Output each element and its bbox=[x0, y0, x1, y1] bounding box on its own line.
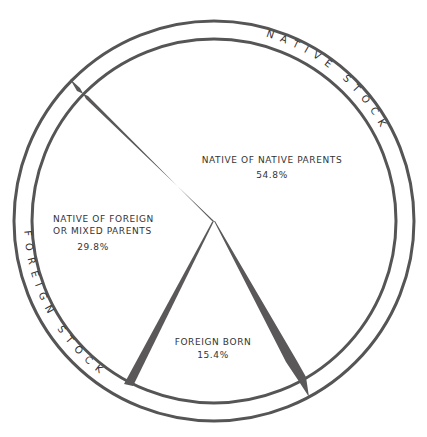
pie-chart: NATIVE STOCK FOREIGN STOCK NATIVE OF NAT… bbox=[0, 0, 427, 437]
slice-name: NATIVE OF NATIVE PARENTS bbox=[202, 155, 343, 165]
separator-native-foreign bbox=[70, 79, 214, 222]
slice-value: 54.8% bbox=[256, 170, 288, 180]
slice-name: NATIVE OF FOREIGN bbox=[53, 214, 154, 224]
slice-name: FOREIGN BORN bbox=[175, 337, 252, 347]
separator-native-foreignborn bbox=[214, 221, 309, 397]
slice-name-line2: OR MIXED PARENTS bbox=[53, 226, 152, 236]
slice-label-native-native: NATIVE OF NATIVE PARENTS 54.8% bbox=[202, 155, 343, 180]
slice-value: 15.4% bbox=[197, 350, 229, 360]
slice-label-native-foreign: NATIVE OF FOREIGN OR MIXED PARENTS 29.8% bbox=[53, 214, 154, 252]
slice-label-foreign-born: FOREIGN BORN 15.4% bbox=[175, 337, 252, 360]
separator-foreignborn-mixed bbox=[124, 221, 214, 386]
slice-value: 29.8% bbox=[77, 242, 109, 252]
